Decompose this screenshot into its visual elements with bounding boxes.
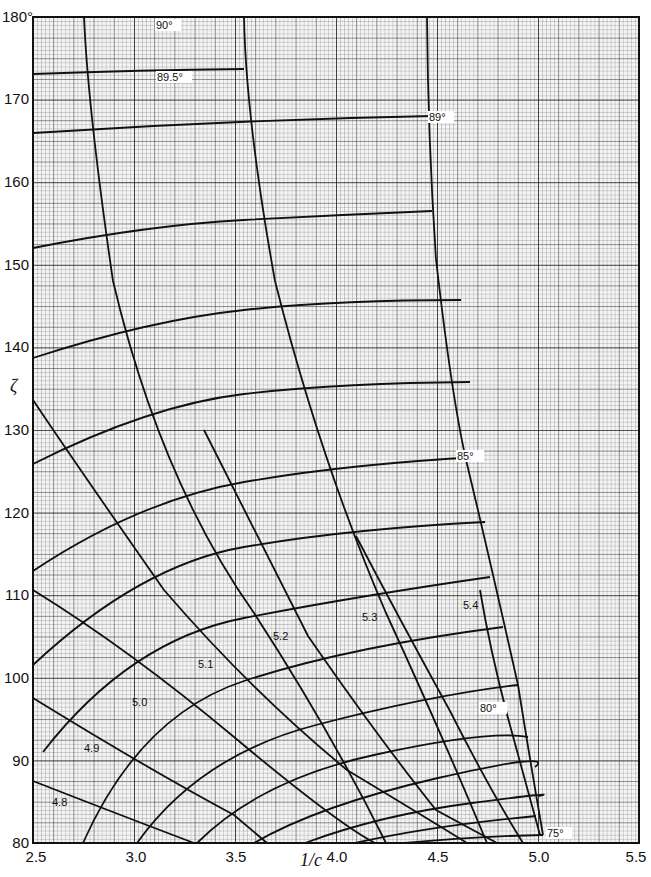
label-5.0: 5.0 (132, 696, 147, 708)
label-5.4: 5.4 (463, 599, 478, 611)
y-tick-110: 110 (5, 586, 29, 603)
label-89deg: 89° (429, 111, 446, 123)
label-89.5deg: 89.5° (157, 71, 183, 83)
y-tick-90: 90 (12, 752, 29, 769)
y-axis-title: ζ (10, 376, 19, 396)
y-axis: 80 90 100 110 120 130 140 150 160 170 18… (2, 8, 33, 851)
x-tick-5.5: 5.5 (626, 848, 647, 865)
label-85deg: 85° (457, 450, 474, 462)
y-tick-130: 130 (4, 421, 29, 438)
x-axis-title: 1/c (300, 850, 322, 870)
label-5.1: 5.1 (198, 658, 213, 670)
label-4.9: 4.9 (84, 742, 99, 754)
y-tick-160: 160 (4, 173, 29, 190)
x-tick-3.5: 3.5 (226, 848, 247, 865)
x-tick-3.0: 3.0 (126, 848, 147, 865)
label-80deg: 80° (480, 702, 497, 714)
x-tick-4.0: 4.0 (327, 848, 348, 865)
x-axis: 2.5 3.0 3.5 4.0 4.5 5.0 5.5 1/c (26, 848, 647, 870)
y-tick-180: 180° (2, 8, 33, 25)
x-tick-4.5: 4.5 (428, 848, 449, 865)
x-tick-5.0: 5.0 (529, 848, 550, 865)
label-5.2: 5.2 (273, 630, 288, 642)
y-tick-120: 120 (4, 504, 29, 521)
chart: 80 90 100 110 120 130 140 150 160 170 18… (0, 0, 651, 877)
label-75deg: 75° (547, 827, 564, 839)
y-tick-100: 100 (4, 669, 29, 686)
y-tick-140: 140 (4, 338, 29, 355)
label-4.8: 4.8 (52, 796, 67, 808)
label-90deg: 90° (156, 19, 173, 31)
x-tick-2.5: 2.5 (26, 848, 47, 865)
y-tick-170: 170 (4, 90, 29, 107)
label-5.3: 5.3 (362, 611, 377, 623)
y-tick-150: 150 (4, 256, 29, 273)
